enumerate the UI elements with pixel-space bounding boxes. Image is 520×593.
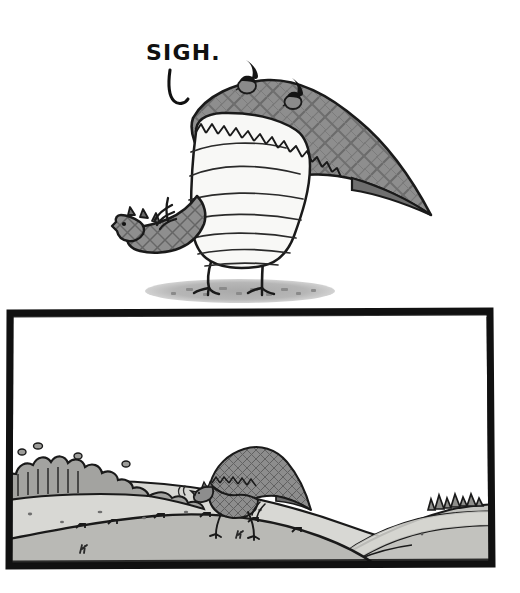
small-dragon-eye: [198, 492, 200, 494]
panel-bottom-artwork: [4, 306, 496, 572]
ground-shadow: [145, 279, 335, 303]
panel-top: SIGH.: [0, 0, 520, 306]
panel-top-artwork: SIGH.: [0, 0, 520, 306]
panel-bottom: [4, 306, 494, 569]
dragon-head: [112, 215, 144, 241]
comic-strip: SIGH.: [0, 0, 520, 593]
dragon-eye: [122, 222, 126, 226]
dialogue-text: SIGH.: [146, 40, 221, 65]
dialogue-sigh: SIGH.: [146, 40, 221, 103]
perched-bird-left: [236, 60, 258, 94]
valley-speck: [421, 533, 424, 536]
speech-tail: [169, 70, 188, 103]
